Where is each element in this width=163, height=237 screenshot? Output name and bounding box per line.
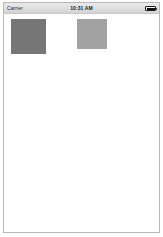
status-bar: Carrier 10:31 AM xyxy=(4,3,159,14)
image-placeholder-large[interactable] xyxy=(11,19,46,54)
battery-full-icon xyxy=(145,6,156,11)
status-bar-time: 10:31 AM xyxy=(4,3,159,14)
device-frame: Carrier 10:31 AM xyxy=(3,2,160,233)
content-area xyxy=(4,14,159,232)
image-placeholder-small[interactable] xyxy=(77,19,107,49)
status-bar-right xyxy=(145,3,156,14)
